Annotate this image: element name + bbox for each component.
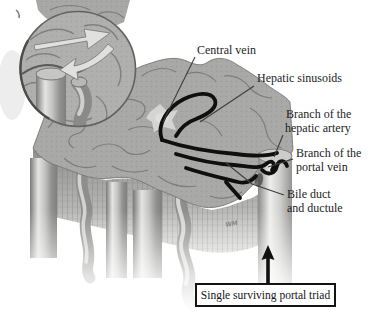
bile-duct-label-line1: Bile duct <box>287 187 331 201</box>
figure-canvas: WM <box>0 0 370 321</box>
portal-vein-label-line2: portal vein <box>296 160 348 174</box>
bile-duct-label-line2: and ductule <box>287 201 343 215</box>
central-vein-label: Central vein <box>197 43 256 57</box>
hepatic-artery-label-line2: hepatic artery <box>285 121 351 135</box>
portal-vein-label-line1: Branch of the <box>296 146 361 160</box>
liver-lobule-figure: WM <box>0 0 370 321</box>
tick-mark <box>16 10 19 18</box>
hepatic-artery-label-line1: Branch of the <box>286 107 351 121</box>
hepatic-sinusoids-label: Hepatic sinusoids <box>257 71 342 85</box>
caption-box-label: Single surviving portal triad <box>201 289 331 302</box>
